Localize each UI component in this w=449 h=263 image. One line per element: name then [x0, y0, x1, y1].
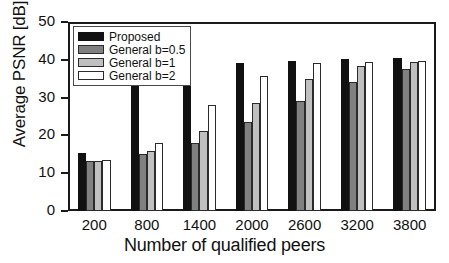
bar [244, 122, 252, 211]
y-axis-tick-mark [61, 97, 68, 99]
bar [418, 61, 426, 211]
bar [94, 161, 102, 211]
x-axis-tick-label: 800 [117, 216, 177, 233]
bar [402, 69, 410, 211]
x-axis-tick-label: 2000 [222, 216, 282, 233]
x-axis-tick-label: 200 [64, 216, 124, 233]
legend-label: Proposed [109, 31, 160, 43]
y-axis-tick-mark [61, 134, 68, 136]
bar [236, 63, 244, 211]
x-axis-tick-label: 3800 [380, 216, 440, 233]
y-axis-tick-label: 40 [38, 50, 55, 67]
bar [410, 62, 418, 211]
bar-group [236, 22, 269, 211]
bar [296, 101, 304, 211]
bar [357, 66, 365, 211]
y-axis-label: Average PSNR [dB] [10, 0, 30, 194]
bar [349, 82, 357, 211]
y-axis-tick-label: 30 [38, 88, 55, 105]
legend-label: General b=1 [109, 57, 175, 69]
legend-swatch [78, 32, 104, 41]
y-axis-tick-mark [61, 210, 68, 212]
y-axis-tick-label: 50 [38, 12, 55, 29]
bar [252, 103, 260, 211]
bar [393, 58, 401, 211]
bar [288, 61, 296, 211]
y-axis-tick-mark [61, 21, 68, 23]
legend-swatch [78, 71, 104, 80]
y-axis-tick-label: 0 [47, 201, 55, 218]
bar [313, 63, 321, 211]
bar [78, 153, 86, 211]
bar [139, 154, 147, 211]
y-axis-tick-mark [61, 59, 68, 61]
bar [199, 131, 207, 211]
legend-swatch [78, 58, 104, 67]
bar-group [393, 22, 426, 211]
legend-swatch [78, 45, 104, 54]
x-axis-tick-label: 2600 [275, 216, 335, 233]
bar [341, 59, 349, 211]
x-axis-label: Number of qualified peers [0, 235, 449, 256]
bar [260, 76, 268, 211]
bar [305, 79, 313, 211]
bar [86, 161, 94, 211]
bar-chart-figure: Average PSNR [dB] 01020304050 2008001400… [0, 0, 449, 263]
bar-group [288, 22, 321, 211]
legend-label: General b=0.5 [109, 44, 185, 56]
bar [183, 67, 191, 211]
legend-item: Proposed [78, 30, 185, 43]
chart-legend: ProposedGeneral b=0.5General b=1General … [73, 26, 191, 86]
legend-label: General b=2 [109, 70, 175, 82]
bar [208, 105, 216, 211]
bar [191, 143, 199, 211]
x-axis-tick-label: 1400 [169, 216, 229, 233]
y-axis-tick-mark [61, 172, 68, 174]
bar [131, 79, 139, 211]
bar-group [341, 22, 374, 211]
bar [155, 143, 163, 211]
legend-item: General b=1 [78, 56, 185, 69]
x-axis-tick-label: 3200 [327, 216, 387, 233]
y-axis-tick-label: 20 [38, 125, 55, 142]
bar [365, 62, 373, 211]
legend-item: General b=2 [78, 69, 185, 82]
bar [147, 151, 155, 211]
bar [102, 160, 110, 211]
legend-item: General b=0.5 [78, 43, 185, 56]
y-axis-tick-label: 10 [38, 163, 55, 180]
